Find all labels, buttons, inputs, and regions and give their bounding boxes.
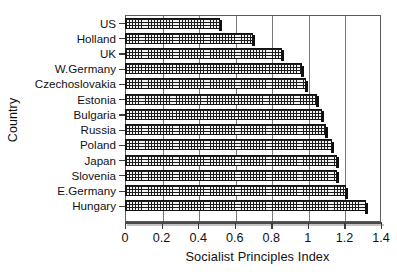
y-axis-tick-label: Poland [80,139,116,151]
bar-row [125,109,322,120]
socialist-principles-index-chart: Country USHollandUKW.GermanyCzechoslovak… [0,0,397,275]
y-axis-tick [119,53,125,54]
bar-row [125,139,332,150]
bar-row [125,94,317,105]
y-axis-tick-label: Russia [81,124,116,136]
x-axis-tick [344,222,345,229]
y-axis-tick-label: Slovenia [72,170,116,182]
y-axis-tick-label: Holland [77,33,116,45]
x-axis-tick [271,222,272,229]
x-axis-tick [235,222,236,229]
y-axis-tick [119,130,125,131]
x-axis-tick-label: 0.8 [251,231,291,245]
y-axis-tick-labels: USHollandUKW.GermanyCzechoslovakiaEstoni… [0,30,120,222]
y-axis-tick [119,23,125,24]
y-axis-tick [119,175,125,176]
y-axis-tick-label: Bulgaria [73,109,116,121]
bar-row [125,170,337,181]
y-axis-tick-label: Czechoslovakia [35,78,116,90]
y-axis-tick [119,69,125,70]
bar [125,185,346,196]
y-axis-tick [119,84,125,85]
y-axis-tick-label: W.Germany [55,63,116,75]
x-axis-tick [125,222,126,229]
x-axis-tick-label: 0.6 [215,231,255,245]
bar [125,200,366,211]
bar [125,94,317,105]
bar-row [125,124,326,135]
y-axis-tick [119,191,125,192]
bars-layer [125,15,381,222]
x-axis-tick-label: 0.4 [178,231,218,245]
bar [125,33,253,44]
x-axis-tick-label: 0 [105,231,145,245]
y-axis-tick-label: Hungary [72,200,116,212]
x-axis-tick [381,222,382,229]
x-axis-title-text: Socialist Principles Index [67,249,329,264]
x-axis-tick-label: 0.2 [142,231,182,245]
y-axis-tick-label: UK [100,48,116,60]
bar-row [125,200,366,211]
bar [125,48,282,59]
y-axis-tick [119,206,125,207]
x-axis-tick [308,222,309,229]
bar [125,139,332,150]
x-axis-tick-label: 1.4 [361,231,397,245]
bar [125,18,220,29]
bar [125,124,326,135]
bar-row [125,18,220,29]
bar [125,63,302,74]
bar-row [125,33,253,44]
bar [125,170,337,181]
bar-row [125,78,306,89]
x-axis-tick-label: 1.2 [324,231,364,245]
y-axis-tick-label: Japan [84,155,116,167]
bar-row [125,185,346,196]
x-axis-tick [198,222,199,229]
bar [125,155,337,166]
y-axis-tick [119,145,125,146]
y-axis-tick-label: US [100,18,116,30]
x-axis-tick-label: 1 [288,231,328,245]
y-axis-tick-label: Estonia [77,94,116,106]
y-axis-tick [119,160,125,161]
x-axis-tick [162,222,163,229]
y-axis-tick [119,114,125,115]
x-axis-title: Socialist Principles Index [0,249,397,264]
bar-row [125,155,337,166]
y-axis-tick [119,38,125,39]
bar [125,109,322,120]
bar [125,78,306,89]
bar-row [125,63,302,74]
y-axis-tick [119,99,125,100]
y-axis-tick-label: E.Germany [57,185,116,197]
bar-row [125,48,282,59]
